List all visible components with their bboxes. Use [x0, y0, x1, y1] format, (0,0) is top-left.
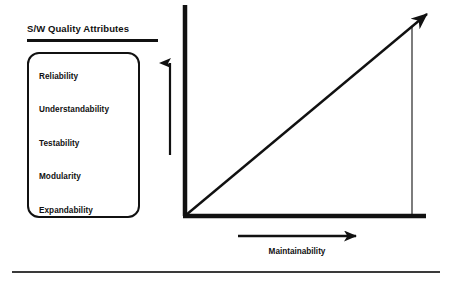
bottom-divider — [12, 271, 440, 273]
chart-area: Maintainability — [0, 0, 450, 284]
chart-svg — [0, 0, 450, 284]
x-axis-label: Maintainability — [247, 247, 347, 256]
trend-arrow — [186, 14, 427, 215]
diagram-canvas: S/W Quality Attributes Reliability Under… — [0, 0, 450, 284]
